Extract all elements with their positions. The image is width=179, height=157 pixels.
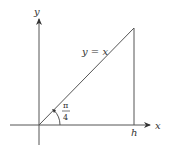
line-label: y = x	[81, 46, 108, 57]
diagram-canvas: y x y = x h π 4	[0, 0, 179, 157]
h-label: h	[131, 127, 137, 138]
angle-arc	[54, 110, 60, 125]
angle-label-numerator: π	[63, 101, 68, 110]
y-axis-label: y	[33, 6, 40, 17]
angle-label-denominator: 4	[63, 113, 68, 122]
x-axis-label: x	[155, 120, 161, 131]
